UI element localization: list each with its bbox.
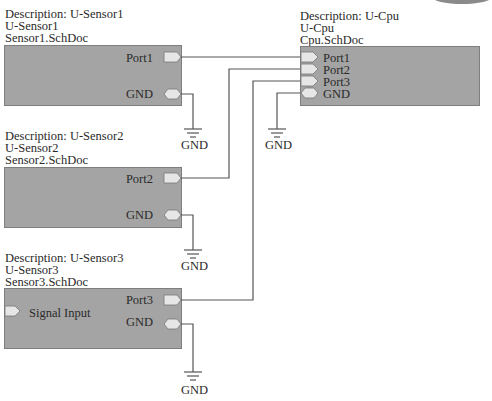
wire-sensor2-gnd[interactable] xyxy=(181,215,193,250)
ground-symbols xyxy=(184,129,286,380)
sensor2-gnd-port-icon xyxy=(164,210,181,220)
sensor1-gnd-port-icon xyxy=(164,89,181,99)
wire-cpu-gnd[interactable] xyxy=(277,93,300,129)
sensor2-port2-icon xyxy=(164,173,181,183)
cpu-gnd-symbol-label: GND xyxy=(265,139,292,152)
sensor3-gnd-port-icon xyxy=(164,319,181,329)
wire-port2[interactable] xyxy=(181,69,300,178)
wire-sensor1-gnd[interactable] xyxy=(181,94,193,129)
sensor1-port1-icon xyxy=(164,52,181,62)
sensor3-port3-icon xyxy=(164,295,181,305)
cpu-port3-icon xyxy=(301,76,318,86)
cpu-gnd-port-icon xyxy=(301,88,318,98)
cpu-port1-icon xyxy=(301,52,318,62)
sensor2-gnd-symbol-label: GND xyxy=(181,260,208,273)
sensor1-gnd-symbol-label: GND xyxy=(181,139,208,152)
cpu-port2-icon xyxy=(301,64,318,74)
sensor3-gnd-symbol-label: GND xyxy=(181,384,208,397)
wire-sensor3-gnd[interactable] xyxy=(181,324,193,372)
sensor3-signal-input-icon xyxy=(5,306,20,316)
port-shapes xyxy=(5,52,318,329)
